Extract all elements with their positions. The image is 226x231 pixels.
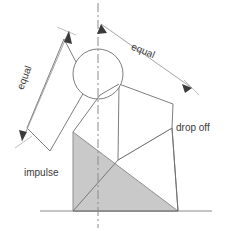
label-impulse: impulse <box>24 167 58 178</box>
right-arm-quad <box>118 84 173 160</box>
label-drop-off: drop off <box>176 122 210 133</box>
extension-line-left-top <box>57 27 76 35</box>
diagram-svg <box>0 0 226 231</box>
arrowhead-right-end <box>182 84 192 93</box>
diagram-canvas: equal equal drop off impulse <box>0 0 226 231</box>
drop-off-edge <box>172 128 178 211</box>
left-arm-bar <box>27 39 88 151</box>
